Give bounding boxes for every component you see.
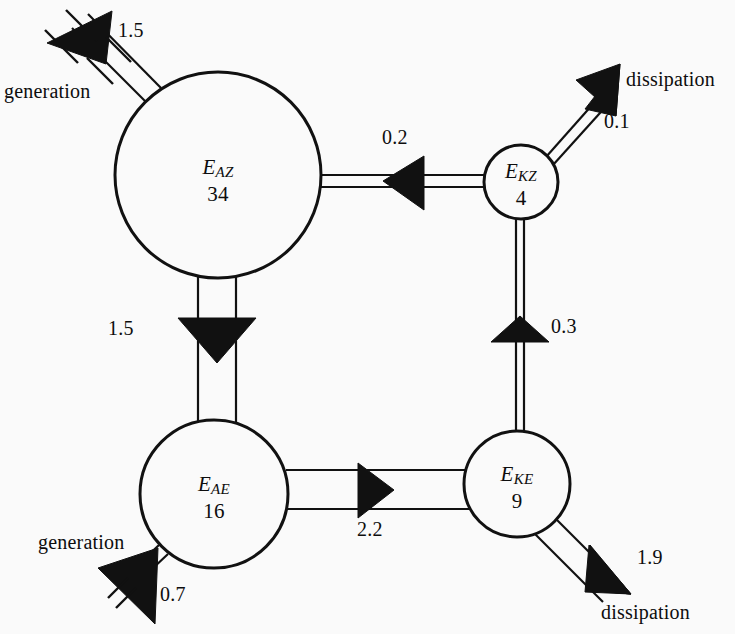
flux-value-generation-az: 1.5 — [118, 19, 144, 42]
arrowhead-dissipation-ke — [585, 545, 631, 594]
flux-value-dissipation-kz: 0.1 — [604, 110, 630, 133]
flux-value-az-ae: 1.5 — [108, 317, 134, 340]
arrowhead-az-ae — [178, 318, 256, 363]
label-dissipation-top: dissipation — [626, 68, 715, 91]
flux-value-kz-az: 0.2 — [382, 126, 408, 149]
arrowhead-dissipation-kz — [576, 64, 620, 116]
label-generation-top: generation — [4, 80, 90, 103]
node-symbol-EAE: EAE — [198, 472, 230, 496]
node-value-EKE: 9 — [462, 490, 572, 512]
node-value-EAZ: 34 — [158, 183, 278, 205]
node-symbol-EKZ: EKZ — [505, 159, 537, 183]
arrowhead-kz-az — [383, 156, 424, 210]
flux-value-ae-ke: 2.2 — [357, 518, 383, 541]
node-label-EKE: EKE 9 — [462, 463, 572, 512]
arrowhead-generation-ae — [98, 548, 158, 624]
arrowhead-ke-kz — [491, 316, 549, 342]
flux-value-generation-ae: 0.7 — [160, 583, 186, 606]
flux-value-ke-kz: 0.3 — [551, 315, 577, 338]
node-symbol-EAZ: EAZ — [202, 155, 233, 179]
node-label-EKZ: EKZ 4 — [466, 160, 576, 209]
node-label-EAZ: EAZ 34 — [158, 156, 278, 205]
node-symbol-EKE: EKE — [501, 462, 534, 486]
label-generation-bottom: generation — [38, 531, 124, 554]
node-value-EAE: 16 — [154, 500, 274, 522]
label-dissipation-bottom: dissipation — [601, 601, 690, 624]
node-label-EAE: EAE 16 — [154, 473, 274, 522]
flux-value-dissipation-ke: 1.9 — [637, 546, 663, 569]
node-value-EKZ: 4 — [466, 187, 576, 209]
energy-cycle-figure: EAZ 34 EKZ 4 EAE 16 EKE 9 1.5 1.5 0.2 0.… — [0, 0, 735, 634]
